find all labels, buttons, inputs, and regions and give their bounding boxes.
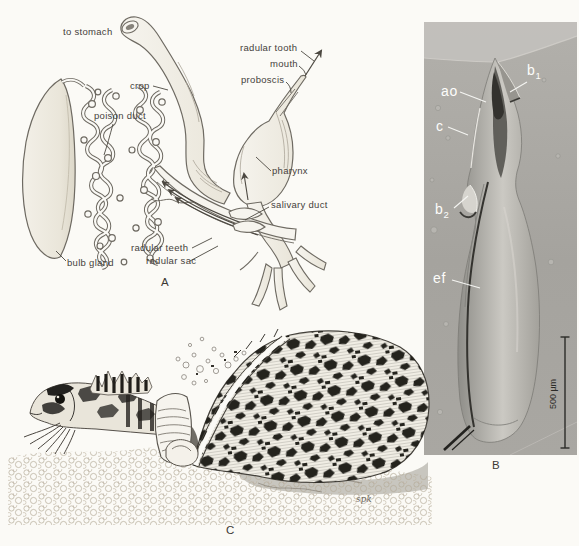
- panel-letter-a: A: [161, 276, 169, 288]
- dorsal-fin: [90, 371, 152, 395]
- label-salivary-duct: salivary duct: [271, 200, 328, 210]
- label-b2: b2: [435, 202, 449, 219]
- fish-shape: [24, 371, 165, 454]
- label-ao: ao: [441, 84, 458, 99]
- label-crop: crop: [130, 81, 150, 91]
- cone-snail-figure: to stomach crop poison duct radular toot…: [0, 0, 579, 546]
- label-b2-sub: 2: [443, 209, 449, 220]
- label-c: c: [436, 119, 444, 134]
- label-to-stomach: to stomach: [63, 27, 112, 37]
- label-pharynx: pharynx: [272, 166, 308, 176]
- rostrum-lip-fold: [166, 440, 198, 467]
- label-bulb-gland: bulb gland: [67, 258, 114, 268]
- label-radular-sac: radular sac: [146, 256, 196, 266]
- label-b1: b1: [527, 63, 541, 80]
- panel-letter-c: C: [226, 524, 235, 536]
- label-mouth: mouth: [270, 59, 298, 69]
- label-radular-teeth: radular teeth: [131, 243, 188, 253]
- label-proboscis: proboscis: [241, 75, 284, 85]
- bulb-gland-shape: [23, 79, 76, 258]
- cone-shell-shape: [192, 329, 429, 482]
- venom-apparatus-drawing: [0, 0, 400, 330]
- label-b1-sub: 1: [535, 70, 541, 81]
- label-poison-duct: poison duct: [94, 111, 146, 121]
- label-radular-tooth: radular tooth: [240, 43, 297, 53]
- panel-letter-b: B: [492, 459, 500, 471]
- rostrum-shape: [155, 394, 198, 467]
- scale-bar-label: 500 µm: [548, 379, 558, 409]
- artist-signature: spk: [356, 494, 372, 504]
- poison-duct-coils: [62, 80, 169, 268]
- protruding-tooth-arrow: [305, 51, 321, 76]
- label-ef: ef: [433, 271, 446, 286]
